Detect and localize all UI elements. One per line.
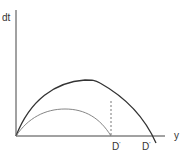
outer-curve <box>16 80 156 143</box>
d-inner-mark: ' <box>119 141 120 147</box>
d-inner-label: D' <box>112 142 120 152</box>
y-axis-label: dt <box>2 13 10 23</box>
chart-canvas <box>0 0 185 156</box>
inner-curve <box>16 109 111 136</box>
x-axis-label-text: y <box>174 130 179 141</box>
d-outer-label: D' <box>142 142 150 152</box>
y-axis-label-text: dt <box>2 12 10 23</box>
d-outer-mark: ' <box>149 141 150 147</box>
x-axis-label: y <box>174 131 179 141</box>
